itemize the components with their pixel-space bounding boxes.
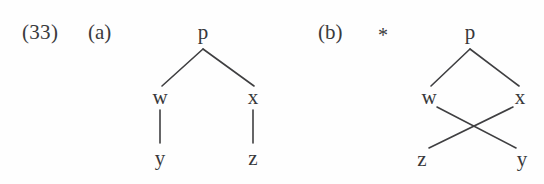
branch-b-p-to-w [431,49,470,86]
branch-b-p-to-x [470,49,519,86]
tree-a-node-root: p [198,22,209,43]
example-number: (33) [22,22,58,43]
branch-b-w-to-y-crossing [437,107,516,148]
tree-a-node-left-terminal: y [155,148,166,169]
tree-a-node-left-daughter: w [152,87,167,108]
tree-branch-lines [0,0,544,184]
figure-canvas: (33) (a) p w x y z (b) * p w x z y [0,0,544,184]
branch-a-p-to-x [203,49,254,86]
tree-b-node-left-daughter: w [421,87,436,108]
tree-b-grammaticality-marker: * [378,25,388,45]
tree-b-node-right-daughter: x [515,87,526,108]
tree-b-node-left-terminal: z [417,149,426,170]
tree-a-node-right-daughter: x [248,87,259,108]
branch-a-p-to-w [162,49,203,86]
branch-b-x-to-z-crossing [429,107,513,148]
tree-b-node-root: p [465,22,476,43]
tree-b-node-right-terminal: y [517,149,528,170]
tree-b-label: (b) [318,22,343,43]
tree-a-label: (a) [88,22,111,43]
tree-a-node-right-terminal: z [248,148,257,169]
